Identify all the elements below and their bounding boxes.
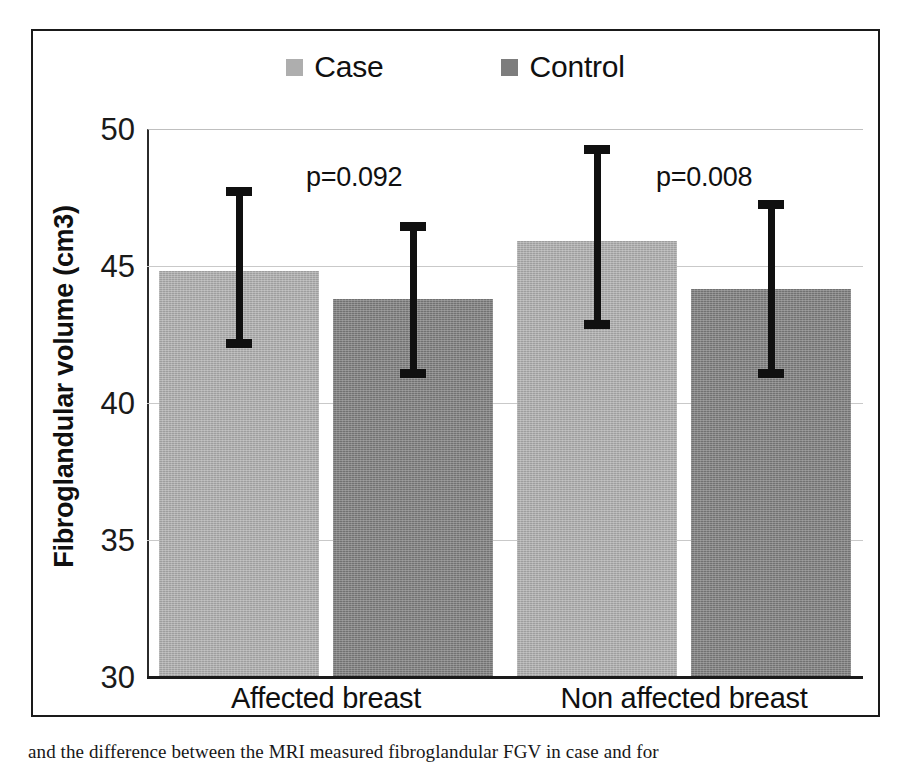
legend-label-case: Case	[314, 52, 383, 82]
y-tick-label: 50	[65, 114, 135, 145]
error-bar-case-affected-breast	[199, 187, 279, 349]
figure-panel: Case Control Fibroglandular volume (cm3)…	[31, 29, 880, 717]
error-bar-stem	[236, 187, 243, 349]
legend-swatch-control-icon	[501, 59, 518, 76]
error-bar-case-non-affected-breast	[557, 145, 637, 329]
y-tick-label: 30	[65, 662, 135, 693]
plot-area: p=0.092 p=0.008	[147, 129, 863, 677]
y-tick-label: 40	[65, 388, 135, 419]
figure-caption-fragment: and the difference between the MRI measu…	[28, 741, 888, 767]
error-bar-cap-bottom	[758, 369, 784, 378]
chart-legend: Case Control	[33, 41, 878, 93]
x-tick-label-non-affected-breast: Non affected breast	[505, 683, 863, 729]
p-value-annotation-affected-breast: p=0.092	[306, 162, 402, 193]
error-bar-stem	[410, 222, 417, 378]
x-tick-label-affected-breast: Affected breast	[147, 683, 505, 729]
error-bar-cap-top	[400, 222, 426, 231]
x-axis-tick-labels: Affected breast Non affected breast	[147, 683, 863, 729]
error-bar-control-non-affected-breast	[731, 200, 811, 378]
legend-entry-case: Case	[286, 52, 383, 82]
legend-entry-control: Control	[501, 52, 624, 82]
error-bar-cap-top	[584, 145, 610, 154]
p-value-annotation-non-affected-breast: p=0.008	[656, 162, 752, 193]
legend-swatch-case-icon	[286, 59, 303, 76]
error-bar-cap-bottom	[400, 369, 426, 378]
error-bar-cap-bottom	[226, 339, 252, 348]
error-bar-stem	[594, 145, 601, 329]
error-bar-cap-bottom	[584, 320, 610, 329]
legend-label-control: Control	[529, 52, 624, 82]
error-bar-control-affected-breast	[373, 222, 453, 378]
y-tick-label: 45	[65, 251, 135, 282]
x-axis-line	[147, 676, 863, 679]
error-bar-stem	[768, 200, 775, 378]
y-tick-label: 35	[65, 525, 135, 556]
y-axis-tick-labels: 50 45 40 35 30	[55, 129, 135, 677]
error-bar-cap-top	[758, 200, 784, 209]
error-bar-cap-top	[226, 187, 252, 196]
